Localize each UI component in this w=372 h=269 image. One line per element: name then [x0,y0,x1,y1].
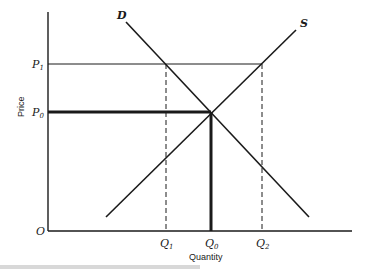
supply-demand-diagram: D S P1 P0 O Q1 Q0 Q2 Price Quantity [0,0,372,269]
demand-label: D [116,9,127,22]
p0-label: P0 [31,106,44,120]
q1-label: Q1 [160,237,174,251]
supply-label: S [300,17,308,30]
x-axis-title: Quantity [189,252,223,262]
supply-curve [106,30,296,217]
q2-label: Q2 [256,237,270,251]
demand-curve [126,22,309,217]
origin-label: O [36,225,45,238]
q0-label: Q0 [205,237,219,251]
p1-label: P1 [31,58,44,72]
y-axis-title: Price [16,96,26,117]
caption-fragment [0,265,200,269]
